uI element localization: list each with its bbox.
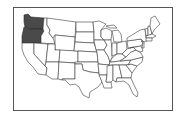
state-north-dakota[interactable]	[76, 22, 94, 32]
us-map	[0, 0, 185, 120]
state-south-dakota[interactable]	[75, 32, 94, 43]
state-nebraska[interactable]	[74, 42, 97, 52]
state-montana[interactable]	[47, 18, 76, 38]
state-new-mexico[interactable]	[58, 62, 75, 80]
state-indiana[interactable]	[112, 43, 117, 56]
state-wyoming[interactable]	[55, 35, 75, 51]
state-colorado[interactable]	[59, 50, 78, 63]
state-mississippi[interactable]	[106, 65, 113, 82]
state-kansas[interactable]	[78, 51, 98, 62]
state-washington[interactable]	[24, 14, 44, 29]
state-arizona[interactable]	[45, 62, 59, 79]
state-wisconsin[interactable]	[101, 28, 112, 40]
state-connecticut[interactable]	[146, 38, 152, 41]
state-maine[interactable]	[150, 16, 160, 34]
state-florida[interactable]	[116, 78, 138, 97]
